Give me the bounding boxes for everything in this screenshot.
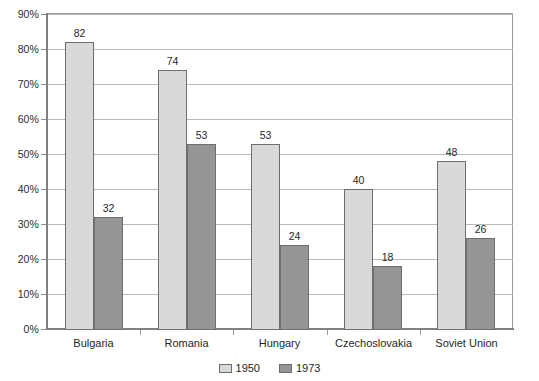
bar-value-label: 18 (371, 252, 405, 263)
bar-value-label: 26 (464, 224, 498, 235)
y-axis-label: 80% (1, 44, 39, 54)
y-axis-label: 50% (1, 149, 39, 159)
x-axis-tick (420, 330, 421, 335)
x-axis-category-hungary: Hungary (233, 337, 326, 350)
bar-romania-1950 (158, 70, 187, 330)
y-axis-label: 20% (1, 254, 39, 264)
bar-value-label: 82 (63, 28, 97, 39)
y-axis-label: 40% (1, 184, 39, 194)
legend-swatch-1973 (279, 364, 292, 373)
legend-label: 1973 (296, 363, 320, 374)
y-axis-label: 0% (1, 324, 39, 334)
bar-value-label: 32 (92, 203, 126, 214)
bar-czechoslovakia-1973 (373, 266, 402, 330)
bar-czechoslovakia-1950 (344, 189, 373, 330)
y-axis-label: 60% (1, 114, 39, 124)
legend-item-1950[interactable]: 1950 (219, 363, 260, 374)
bar-hungary-1973 (280, 245, 309, 330)
chart-legend: 19501973 (0, 360, 539, 376)
bar-chart: 0%10%20%30%40%50%60%70%80%90% 8232745353… (0, 0, 539, 381)
legend-swatch-1950 (219, 364, 232, 373)
y-axis-label: 70% (1, 79, 39, 89)
legend-item-1973[interactable]: 1973 (279, 363, 320, 374)
bar-value-label: 53 (249, 130, 283, 141)
bar-value-label: 24 (278, 231, 312, 242)
x-axis-tick (140, 330, 141, 335)
gridline (47, 14, 513, 15)
bar-bulgaria-1973 (94, 217, 123, 330)
x-axis-category-czechoslovakia: Czechoslovakia (327, 337, 420, 350)
y-axis-label: 90% (1, 9, 39, 19)
y-axis-label: 30% (1, 219, 39, 229)
legend-label: 1950 (236, 363, 260, 374)
bar-soviet-union-1973 (466, 238, 495, 330)
bar-romania-1973 (187, 144, 216, 330)
y-axis-line (46, 13, 48, 330)
gridline (47, 49, 513, 50)
x-axis-category-bulgaria: Bulgaria (47, 337, 140, 350)
bar-soviet-union-1950 (437, 161, 466, 330)
gridline (47, 84, 513, 85)
bar-value-label: 53 (185, 130, 219, 141)
x-axis-category-soviet-union: Soviet Union (420, 337, 513, 350)
x-axis-tick (233, 330, 234, 335)
bar-value-label: 48 (435, 147, 469, 158)
bar-value-label: 74 (156, 56, 190, 67)
x-axis-category-romania: Romania (140, 337, 233, 350)
gridline (47, 119, 513, 120)
bar-hungary-1950 (251, 144, 280, 330)
bar-value-label: 40 (342, 175, 376, 186)
x-axis-tick (327, 330, 328, 335)
y-axis-label: 10% (1, 289, 39, 299)
bar-bulgaria-1950 (65, 42, 94, 330)
